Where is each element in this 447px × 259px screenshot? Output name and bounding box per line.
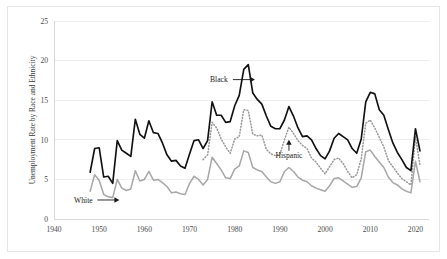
x-tick-label-2020: 2020: [408, 225, 423, 234]
black-annotation-label: Black: [210, 75, 228, 84]
x-tick-label-2010: 2010: [363, 225, 378, 234]
y-tick-label-20: 20: [40, 56, 48, 65]
x-axis-tick-labels: 194019501960197019801990200020102020: [46, 225, 423, 234]
white-annotation-arrow-head: [114, 197, 119, 203]
series-line-black: [90, 65, 420, 184]
x-tick-label-1940: 1940: [46, 225, 61, 234]
x-tick-label-1960: 1960: [137, 225, 152, 234]
black-annotation: Black: [210, 75, 255, 84]
y-tick-label-25: 25: [40, 17, 48, 26]
x-tick-label-1990: 1990: [272, 225, 287, 234]
y-axis-tick-labels: 0510152025: [40, 17, 48, 224]
white-annotation-label: White: [74, 196, 93, 205]
x-tick-label-2000: 2000: [317, 225, 332, 234]
x-tick-label-1970: 1970: [182, 225, 197, 234]
x-tick-label-1950: 1950: [92, 225, 107, 234]
hispanic-annotation: Hispanic: [275, 140, 303, 160]
x-tick-label-1980: 1980: [227, 225, 242, 234]
y-axis-title: Unemployment Rate by Race and Ethnicity: [28, 55, 37, 184]
black-annotation-arrow-head: [250, 77, 255, 83]
hispanic-annotation-arrow-head: [286, 140, 292, 145]
series-line-white: [90, 150, 420, 198]
y-tick-label-10: 10: [40, 136, 48, 145]
chart-figure: 0510152025 19401950196019701980199020002…: [0, 0, 447, 259]
hispanic-annotation-label: Hispanic: [275, 151, 303, 160]
y-tick-label-15: 15: [40, 96, 48, 105]
plot-area-wrapper: 0510152025 19401950196019701980199020002…: [0, 0, 447, 259]
y-tick-label-0: 0: [44, 215, 48, 224]
line-chart: 0510152025 19401950196019701980199020002…: [0, 0, 447, 259]
y-tick-label-5: 5: [44, 175, 48, 184]
